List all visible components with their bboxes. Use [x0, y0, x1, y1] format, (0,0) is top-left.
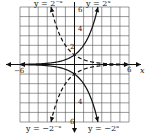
function-graph: 6 4 2 4 6 −6 6 x y = 2⁻ˣ y = 2ˣ y = −2⁻ˣ…: [0, 0, 147, 134]
label-neg-2-x: y = −2ˣ: [87, 124, 120, 133]
label-2-neg-x: y = 2⁻ˣ: [33, 0, 63, 8]
axes: [6, 2, 141, 133]
y-tick-neg4: 4: [78, 98, 83, 106]
y-tick-2: 2: [70, 43, 74, 51]
x-axis-label: x: [140, 66, 145, 75]
label-2-x: y = 2ˣ: [85, 0, 111, 8]
y-tick-neg6: 6: [70, 118, 75, 126]
x-tick-6: 6: [127, 66, 132, 74]
x-tick-neg6: −6: [14, 67, 25, 75]
label-neg-2-neg-x: y = −2⁻ˣ: [25, 124, 62, 133]
y-tick-6: 6: [78, 6, 83, 14]
chart-container: 6 4 2 4 6 −6 6 x y = 2⁻ˣ y = 2ˣ y = −2⁻ˣ…: [0, 0, 147, 134]
y-tick-4: 4: [78, 25, 83, 33]
